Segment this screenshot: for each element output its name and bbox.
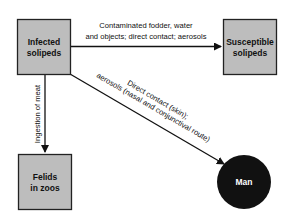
node-label-line-2: in zoos: [30, 183, 60, 193]
edge-label-line-1: Contaminated fodder, water: [99, 21, 193, 30]
node-label-man: Man: [236, 177, 253, 187]
edge-label-line-2: aerosols (nasal and conjunctival route): [95, 71, 212, 145]
node-man: Man: [217, 155, 271, 209]
edge-infected-to-felids: Ingestion of meat: [33, 74, 45, 152]
node-susceptible-solipeds: Susceptible solipeds: [224, 20, 277, 75]
node-label-line-2: solipeds: [27, 48, 62, 58]
node-label-line-1: Felids: [33, 172, 58, 182]
edge-infected-to-man: Direct contact (skin); aerosols (nasal a…: [70, 63, 224, 164]
transmission-diagram: Contaminated fodder, water and objects; …: [0, 0, 296, 222]
node-felids-in-zoos: Felids in zoos: [19, 155, 72, 210]
node-label-line-1: Susceptible: [226, 37, 274, 47]
node-label-line-1: Infected: [28, 37, 61, 47]
node-label-line-2: solipeds: [233, 48, 268, 58]
node-infected-solipeds: Infected solipeds: [18, 20, 71, 75]
edge-label-line-2: and objects; direct contact; aerosols: [85, 32, 206, 41]
edge-label-ingestion: Ingestion of meat: [33, 84, 42, 143]
edge-infected-to-susceptible: Contaminated fodder, water and objects; …: [70, 21, 221, 47]
